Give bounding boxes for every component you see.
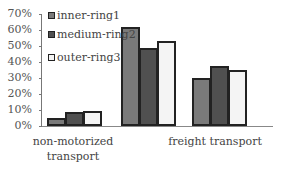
y-tick-mark xyxy=(39,14,42,15)
legend-swatch-icon xyxy=(48,12,55,19)
bar-medium-ring2 xyxy=(210,66,229,126)
legend-label: outer-ring3 xyxy=(57,51,121,64)
legend-swatch-icon xyxy=(48,54,55,61)
bar-inner-ring1 xyxy=(121,27,140,126)
y-tick-label: 50% xyxy=(0,39,32,52)
y-tick-mark xyxy=(39,126,42,127)
legend-swatch-icon xyxy=(48,31,55,38)
bar-inner-ring1 xyxy=(47,118,66,126)
category-label-non-motorized: non-motorized transport xyxy=(28,134,118,164)
y-tick-label: 70% xyxy=(0,7,32,20)
category-label-freight: freight transport xyxy=(160,134,270,149)
y-tick-label: 0% xyxy=(0,119,32,132)
bar-inner-ring1 xyxy=(192,78,211,126)
legend-item-outer-ring3: outer-ring3 xyxy=(48,51,121,64)
bar-outer-ring3 xyxy=(83,111,102,126)
y-tick-mark xyxy=(39,78,42,79)
y-tick-label: 30% xyxy=(0,71,32,84)
category-label-line: transport xyxy=(28,149,118,164)
bar-outer-ring3 xyxy=(157,41,176,126)
y-tick-label: 20% xyxy=(0,87,32,100)
y-tick-label: 40% xyxy=(0,55,32,68)
y-tick-label: 60% xyxy=(0,23,32,36)
bar-outer-ring3 xyxy=(228,70,247,126)
legend-item-inner-ring1: inner-ring1 xyxy=(48,9,120,22)
y-tick-mark xyxy=(39,30,42,31)
y-tick-mark xyxy=(39,110,42,111)
y-tick-label: 10% xyxy=(0,103,32,116)
bar-medium-ring2 xyxy=(65,112,84,126)
category-label-line: non-motorized xyxy=(28,134,118,149)
bar-medium-ring2 xyxy=(139,48,158,126)
legend-label: inner-ring1 xyxy=(57,9,120,22)
x-axis xyxy=(41,126,273,127)
y-tick-mark xyxy=(39,94,42,95)
y-tick-mark xyxy=(39,46,42,47)
legend-item-medium-ring2: medium-ring2 xyxy=(48,28,136,41)
y-tick-mark xyxy=(39,62,42,63)
legend-label: medium-ring2 xyxy=(57,28,136,41)
